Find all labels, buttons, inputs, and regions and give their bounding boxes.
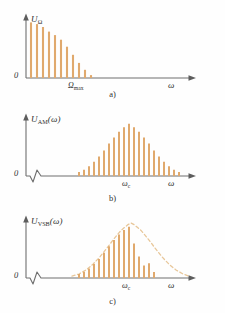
y-axis-label-b: UAM(ω) — [31, 114, 61, 125]
panel-a: UΩ 0 Ωmax ω a) — [0, 0, 225, 104]
y-axis-arrow-b — [23, 114, 29, 121]
y-axis-arrow-a — [23, 14, 29, 21]
x-axis-arrow-b — [189, 173, 197, 179]
origin-label-b: 0 — [14, 168, 18, 178]
bars-b — [79, 124, 179, 176]
tick-label-omega-c-b: ωc — [122, 179, 130, 189]
x-axis-arrow-a — [189, 75, 197, 81]
caption-b: b) — [0, 193, 225, 203]
bars-c — [79, 227, 154, 278]
caption-c: c) — [0, 296, 225, 306]
y-axis-label-c: UVSB(ω) — [31, 216, 63, 227]
tick-label-omega-c-c: ωc — [122, 281, 130, 291]
y-axis-label-a: UΩ — [31, 14, 42, 25]
x-axis-arrow-c — [189, 275, 197, 281]
x-axis-label-b: ω — [168, 178, 174, 188]
caption-a: a) — [0, 89, 225, 99]
panel-b: UAM(ω) 0 ωc ω b) — [0, 104, 225, 208]
panel-c: UVSB(ω) 0 ωc ω c) — [0, 208, 225, 313]
origin-label-a: 0 — [14, 70, 18, 80]
y-axis-arrow-c — [23, 216, 29, 223]
x-axis-label-c: ω — [168, 280, 174, 290]
spectral-envelope-curve-c — [72, 223, 189, 276]
origin-label-c: 0 — [14, 270, 18, 280]
spectrum-figure: UΩ 0 Ωmax ω a) — [0, 0, 225, 313]
bars-a — [31, 22, 91, 78]
